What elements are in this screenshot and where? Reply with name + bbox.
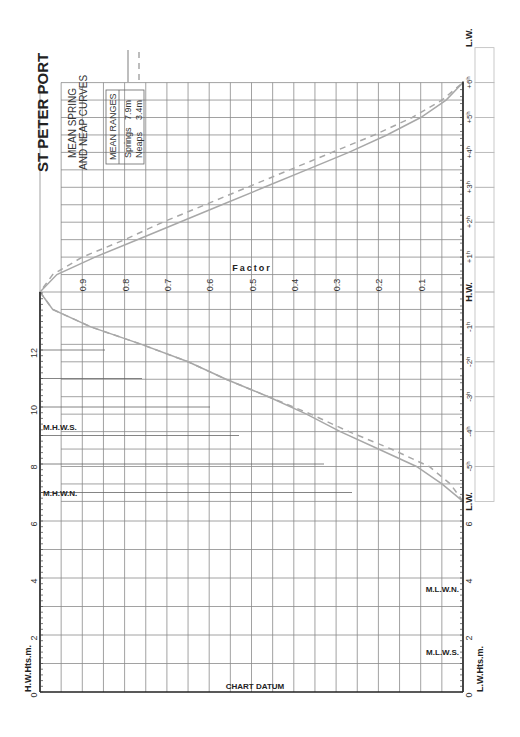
time-box [475,83,494,118]
time-boxes [475,48,494,502]
time-tick-label: +1ʰ [465,251,474,263]
legend-neaps-name: Neaps [134,131,144,158]
factor-tick-label: 0.1 [417,279,427,292]
height-lines [40,350,352,493]
lw-height-tick-label: 6 [464,521,474,526]
hw-height-tick-label: 4 [29,578,39,583]
legend-springs-name: Springs [123,127,133,158]
legend: MEAN RANGES Springs 7.9m Neaps 3.4m [106,50,144,164]
hw-height-tick-label: 0 [29,692,39,697]
time-tick-label: -5ʰ [465,461,474,471]
hw-axis-title: H.W.Hts.m. [23,645,33,692]
chart-subtitle-1: MEAN SPRING [67,88,78,158]
time-box [475,397,494,432]
lw-height-tick-label: 2 [464,635,474,640]
time-box [475,117,494,152]
lw-height-tick-label: 0 [464,692,474,697]
factor-tick-label: 0.5 [248,279,258,292]
hw-height-tick-label: 6 [29,521,39,526]
factor-tick-label: 0.2 [374,279,384,292]
legend-heading: MEAN RANGES [108,93,118,160]
hw-height-tick-label: 10 [29,405,39,415]
time-box [475,362,494,397]
time-box [475,222,494,257]
time-box [475,152,494,187]
factor-tick-label: 0.7 [163,279,173,292]
lw-height-tick-label: 4 [464,578,474,583]
time-tick-label: +2ʰ [465,216,474,228]
chart-title: ST PETER PORT [34,53,51,172]
tidal-curve-chart: 00224466810120.90.80.70.60.50.40.30.20.1… [0,0,520,737]
hw-height-tick-label: 12 [29,348,39,358]
time-box [475,327,494,362]
time-tick-label: -3ʰ [465,392,474,402]
time-box [475,466,494,501]
time-tick-label: -4ʰ [465,427,474,437]
factor-tick-label: 0.6 [205,279,215,292]
time-box [475,48,494,83]
lw-mark-label: M.L.W.N. [426,585,459,594]
time-box [475,257,494,292]
lw-mark-label: M.L.W.S. [426,648,459,657]
time-box [475,432,494,467]
time-tick-label: H.W. [464,282,474,302]
factor-tick-label: 0.9 [78,279,88,292]
legend-springs-value: 7.9m [123,100,133,120]
hw-mark-label: M.H.W.S. [43,423,77,432]
factor-tick-label: 0.8 [121,279,131,292]
time-tick-label: -1ʰ [465,322,474,332]
time-tick-label: L.W. [464,28,474,47]
time-tick-label: +6ʰ [465,77,474,89]
grid [40,83,463,692]
time-tick-label: +4ʰ [465,146,474,158]
time-tick-label: +5ʰ [465,111,474,123]
factor-axis-label: Factor [232,263,272,273]
hw-height-tick-label: 2 [29,635,39,640]
hw-height-tick-label: 8 [29,464,39,469]
labels: 00224466810120.90.80.70.60.50.40.30.20.1… [23,28,485,697]
chart-datum-label: CHART DATUM [226,682,285,691]
legend-neaps-value: 3.4m [134,100,144,120]
time-box [475,292,494,327]
time-tick-label: +3ʰ [465,181,474,193]
hw-mark-label: M.H.W.N. [43,489,77,498]
factor-tick-label: 0.3 [332,279,342,292]
factor-tick-label: 0.4 [290,279,300,292]
time-tick-label: -2ʰ [465,357,474,367]
chart-subtitle-2: AND NEAP CURVES [78,74,89,170]
time-box [475,187,494,222]
lw-axis-title: L.W.Hts.m. [475,646,485,692]
time-tick-label: L.W. [464,492,474,511]
